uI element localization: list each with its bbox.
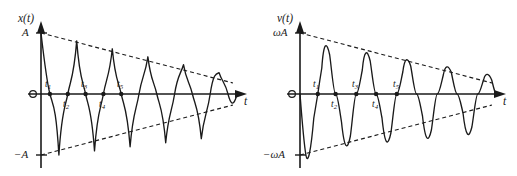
time-label-t5: t5 — [393, 80, 399, 91]
upper-envelope — [41, 33, 233, 83]
zero-crossing-dot-t4 — [101, 92, 105, 96]
time-label-t5: t5 — [117, 80, 123, 91]
velocity-x-axis-label: t — [503, 96, 506, 108]
position-y-axis-label: x(t) — [18, 13, 34, 25]
position-plot-svg — [0, 0, 258, 176]
position-y-min-label: −A — [14, 149, 28, 160]
y-axis-arrowhead — [37, 21, 45, 33]
zero-crossing-dot-t1 — [48, 92, 52, 96]
zero-crossing-dot-t5 — [119, 92, 123, 96]
velocity-y-min-label: −ωA — [263, 149, 285, 160]
velocity-plot-svg — [259, 0, 517, 176]
time-label-t4: t4 — [372, 100, 378, 111]
zero-crossing-dot-t2 — [333, 92, 337, 96]
zero-crossing-dot-t3 — [354, 92, 358, 96]
time-label-t1: t1 — [45, 80, 51, 91]
velocity-y-max-label: ωA — [273, 27, 288, 38]
time-label-t2: t2 — [331, 100, 337, 111]
damped-oscillation-figure: x(t) A −A t t1 t2 t3 t4 t5 v(t — [0, 0, 517, 176]
time-label-t3: t3 — [352, 80, 358, 91]
zero-crossing-dot-t2 — [66, 92, 70, 96]
time-label-t1: t1 — [313, 80, 319, 91]
position-y-max-label: A — [22, 27, 29, 38]
upper-envelope — [300, 33, 492, 83]
zero-crossing-dot-t3 — [83, 92, 87, 96]
time-label-t4: t4 — [99, 100, 105, 111]
lower-envelope — [41, 105, 233, 155]
zero-crossing-dot-t1 — [316, 92, 320, 96]
velocity-y-axis-label: v(t) — [277, 13, 293, 25]
velocity-curve — [300, 46, 496, 159]
time-label-t3: t3 — [81, 80, 87, 91]
y-axis-arrowhead — [296, 21, 304, 33]
zero-crossing-dot-t4 — [374, 92, 378, 96]
position-plot-panel: x(t) A −A t t1 t2 t3 t4 t5 — [0, 0, 258, 176]
zero-crossing-dot-t5 — [395, 92, 399, 96]
velocity-plot-panel: v(t) ωA −ωA t t1 t2 t3 t4 t5 — [259, 0, 517, 176]
time-label-t2: t2 — [63, 100, 69, 111]
position-x-axis-label: t — [244, 96, 247, 108]
